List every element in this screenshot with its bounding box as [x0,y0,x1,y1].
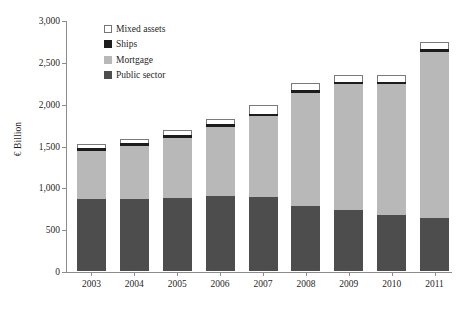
legend-item-label: Mortgage [116,55,153,65]
y-axis-tick-mark [62,147,66,148]
x-axis-tick-label: 2009 [327,279,371,289]
bar-segment-public-sector [291,206,320,271]
bar-stack-2011 [420,42,449,271]
bar-segment-mixed-assets [249,105,278,114]
x-axis-tick-mark [220,272,221,276]
bar-stack-2007 [249,105,278,271]
bar-segment-public-sector [377,215,406,271]
bar-segment-mortgage [120,146,149,199]
bar-segment-mixed-assets [420,42,449,49]
y-axis-tick-mark [62,21,66,22]
bar-segment-public-sector [334,210,363,271]
x-axis-tick-label: 2003 [69,279,113,289]
stacked-bar-chart: € Billion 05001,0001,5002,0002,5003,000 … [0,0,466,312]
bar-stack-2005 [163,130,192,271]
legend-item: Public sector [104,69,165,82]
bar-segment-mortgage [377,84,406,215]
y-axis-title: € Billion [13,99,23,179]
x-axis-tick-label: 2010 [370,279,414,289]
y-axis-line [66,21,67,272]
x-axis-tick-mark [435,272,436,276]
legend-item-label: Ships [116,39,137,49]
x-axis-tick-label: 2004 [112,279,156,289]
y-axis-tick-mark [62,272,66,273]
x-axis-tick-label: 2005 [155,279,199,289]
legend-item: Mixed assets [104,22,165,35]
bar-segment-mortgage [163,138,192,198]
bar-segment-mortgage [291,93,320,206]
x-axis-tick-label: 2008 [284,279,328,289]
bar-segment-mortgage [77,151,106,199]
y-axis-tick-label: 1,500 [0,142,60,152]
bar-segment-mortgage [420,52,449,219]
x-axis-tick-label: 2006 [198,279,242,289]
mixed-assets-swatch [104,25,112,33]
bar-stack-2004 [120,139,149,271]
y-axis-tick-label: 3,000 [0,16,60,26]
bar-stack-2010 [377,75,406,271]
bar-segment-public-sector [120,199,149,271]
x-axis-tick-mark [134,272,135,276]
legend-item: Mortgage [104,53,165,66]
chart-legend: Mixed assetsShipsMortgagePublic sector [104,22,165,82]
y-axis-tick-label: 2,000 [0,100,60,110]
x-axis-tick-mark [392,272,393,276]
x-axis-tick-label: 2011 [413,279,457,289]
y-axis-tick-mark [62,63,66,64]
y-axis-tick-mark [62,230,66,231]
y-axis-tick-label: 500 [0,225,60,235]
y-axis-tick-mark [62,188,66,189]
x-axis-line [66,272,452,273]
legend-item-label: Mixed assets [116,24,165,34]
x-axis-tick-mark [306,272,307,276]
x-axis-tick-label: 2007 [241,279,285,289]
bar-segment-mixed-assets [377,75,406,82]
y-axis-tick-label: 1,000 [0,183,60,193]
bar-stack-2006 [206,119,235,271]
bar-segment-mortgage [206,127,235,196]
legend-item-label: Public sector [116,70,165,80]
bar-stack-2003 [77,144,106,271]
bar-segment-mixed-assets [334,75,363,82]
x-axis-tick-mark [349,272,350,276]
bar-segment-mortgage [334,84,363,210]
bar-segment-mixed-assets [291,83,320,90]
y-axis-tick-label: 2,500 [0,58,60,68]
bar-segment-public-sector [206,196,235,271]
x-axis-tick-mark [91,272,92,276]
x-axis-tick-mark [177,272,178,276]
bar-stack-2008 [291,83,320,271]
bar-segment-public-sector [163,198,192,271]
x-axis-tick-mark [263,272,264,276]
bar-segment-public-sector [77,199,106,271]
bar-segment-public-sector [249,197,278,271]
bar-segment-public-sector [420,218,449,271]
legend-item: Ships [104,38,165,51]
ships-swatch [104,40,112,48]
mortgage-swatch [104,56,112,64]
bar-segment-mortgage [249,116,278,198]
public-sector-swatch [104,71,112,79]
y-axis-tick-label: 0 [0,267,60,277]
bar-stack-2009 [334,75,363,271]
y-axis-tick-mark [62,105,66,106]
